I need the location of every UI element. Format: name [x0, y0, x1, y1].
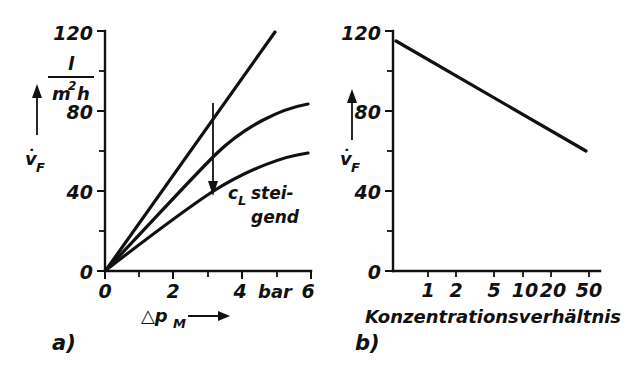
panel-a-unit-numerator: l — [68, 53, 75, 74]
panel-a-x-axis-label: △p — [141, 305, 168, 326]
panel-b-xtick-label-2: 2 — [449, 279, 462, 301]
panel-b-xtick-label-20: 20 — [540, 279, 566, 301]
panel-a-unit-denominator-tail: h — [77, 83, 90, 104]
panel-a-annotation-line2: gend — [251, 207, 300, 227]
panel-a-ytick-label-120: 120 — [53, 22, 93, 44]
panel-a-unit-denominator-exponent: 2 — [68, 79, 76, 93]
panel-a-xtick-label-0: 0 — [98, 280, 111, 302]
panel-a-y-quantity-label: ˙ v F — [25, 146, 45, 175]
panel-b-ytick-label-40: 40 — [354, 181, 381, 203]
panel-a-annotation-line1: stei- — [251, 183, 294, 203]
panel-b-xtick-label-10: 10 — [512, 279, 538, 301]
panel-a-xtick-label-6: 6 — [301, 280, 314, 302]
panel-a-ytick-label-0: 0 — [80, 261, 93, 283]
panel-b-x-axis-label: Konzentrationsverhältnis — [365, 306, 621, 327]
panel-a: 120 80 40 0 l m 2 h ˙ v F — [25, 22, 315, 355]
panel-a-x-direction-arrow-head — [218, 311, 230, 321]
panel-b-ytick-label-0: 0 — [368, 261, 381, 283]
panel-b: 120 80 40 0 ˙ v F 1 2 5 10 20 50 Konze — [340, 22, 621, 355]
panel-a-xtick-label-4: 4 — [232, 280, 246, 302]
panel-a-label: a) — [52, 331, 76, 355]
panel-a-y-direction-arrow — [32, 84, 42, 135]
panel-a-annotation: c L stei- gend — [208, 103, 300, 227]
panel-a-y-quantity-subscript: F — [36, 160, 45, 175]
panel-b-curve — [396, 41, 586, 151]
panel-a-curve-low-cl — [106, 32, 275, 270]
panel-a-ytick-label-40: 40 — [66, 181, 93, 203]
panel-a-x-unit-label: bar — [258, 281, 293, 302]
panel-a-x-axis-label-subscript: M — [173, 316, 186, 331]
panel-a-annotation-symbol: c — [228, 183, 238, 203]
panel-b-xtick-label-5: 5 — [487, 279, 500, 301]
panel-b-y-quantity-label: ˙ v F — [340, 146, 360, 175]
panel-a-x-axis-caption: △p M — [141, 305, 230, 331]
panel-a-y-unit: l m 2 h — [48, 53, 94, 104]
panel-b-label: b) — [355, 331, 380, 355]
figure-root: 120 80 40 0 l m 2 h ˙ v F — [0, 0, 630, 378]
panel-b-y-quantity-subscript: F — [351, 160, 360, 175]
panel-b-ytick-label-120: 120 — [341, 22, 381, 44]
panel-a-xtick-label-2: 2 — [166, 280, 179, 302]
panel-b-ytick-label-80: 80 — [355, 101, 381, 123]
panel-b-xtick-label-1: 1 — [421, 279, 434, 301]
figure-svg: 120 80 40 0 l m 2 h ˙ v F — [0, 0, 630, 378]
panel-a-annotation-symbol-subscript: L — [238, 193, 246, 208]
panel-b-xtick-label-50: 50 — [576, 279, 602, 301]
panel-a-ytick-label-80: 80 — [67, 101, 93, 123]
